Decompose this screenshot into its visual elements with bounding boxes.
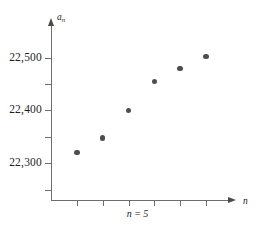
y-axis-minor-tick xyxy=(45,190,52,191)
y-axis-tick-label: 22,500 xyxy=(9,52,42,64)
y-axis-tick-label: 22,300 xyxy=(9,157,42,169)
x-axis-tick xyxy=(180,200,181,206)
y-axis-minor-tick xyxy=(45,84,52,85)
plot-caption: n = 5 xyxy=(0,208,275,219)
y-axis-tick xyxy=(45,110,52,111)
data-point xyxy=(177,66,182,71)
y-axis-minor-tick xyxy=(45,137,52,138)
y-axis-tick xyxy=(45,163,52,164)
data-point xyxy=(126,108,131,113)
x-axis-tick xyxy=(129,200,130,206)
x-axis-tick xyxy=(103,200,104,206)
y-axis-tick-label: 22,400 xyxy=(9,104,42,116)
y-axis-title: an xyxy=(57,12,65,24)
x-axis-arrow-icon xyxy=(228,197,236,203)
y-axis-arrow-icon xyxy=(48,18,54,26)
x-axis-tick xyxy=(77,200,78,206)
data-point xyxy=(203,54,208,59)
data-point xyxy=(152,79,157,84)
data-point xyxy=(74,150,79,155)
x-axis-tick xyxy=(206,200,207,206)
y-axis-line xyxy=(51,26,52,201)
x-axis-tick xyxy=(154,200,155,206)
data-point xyxy=(100,135,105,140)
y-axis-tick xyxy=(45,58,52,59)
scatter-plot-figure: an n n = 5 22,50022,40022,300 xyxy=(0,0,275,234)
y-axis-title-subscript: n xyxy=(62,16,66,24)
x-axis-title: n xyxy=(243,196,248,206)
